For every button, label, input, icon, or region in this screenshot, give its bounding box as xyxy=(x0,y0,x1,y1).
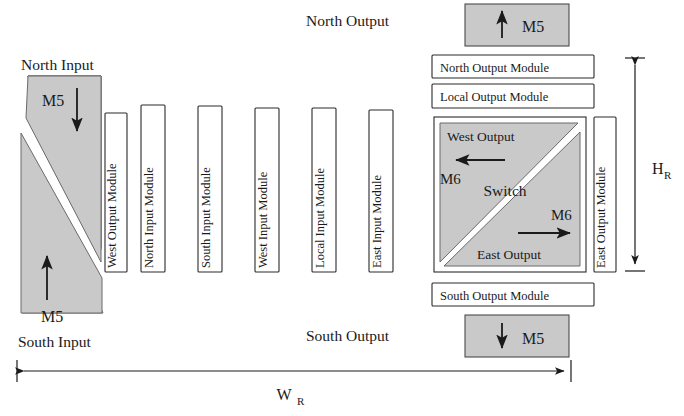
horizontal-module-row[interactable]: South Output Module xyxy=(432,283,594,306)
east-output-module-label: East Output Module xyxy=(594,166,608,268)
vertical-module-column[interactable]: North Input Module xyxy=(141,105,165,272)
vertical-module-label-4: Local Input Module xyxy=(313,168,327,268)
vertical-module-column[interactable]: West Output Module xyxy=(105,113,127,272)
horizontal-module-label-2: South Output Module xyxy=(440,289,549,303)
router-floorplan-svg: North Input M5 M5 South Input West Outpu… xyxy=(0,0,684,416)
horizontal-module-label-0: North Output Module xyxy=(440,61,549,75)
height-dimension-subscript: R xyxy=(664,169,672,181)
height-dimension-label: H xyxy=(652,160,664,177)
switch-center-label: Switch xyxy=(483,182,526,199)
vertical-module-label-3: West Input Module xyxy=(256,171,270,268)
height-dimension: H R xyxy=(625,58,672,271)
west-output-label: West Output xyxy=(447,129,515,144)
east-output-module[interactable]: East Output Module xyxy=(594,117,616,272)
width-dimension-label: W xyxy=(276,386,292,403)
horizontal-module-row[interactable]: Local Output Module xyxy=(432,84,594,108)
east-output-label: East Output xyxy=(477,247,541,262)
width-dimension: W R xyxy=(17,360,571,407)
horizontal-module-label-1: Local Output Module xyxy=(440,90,549,104)
vertical-module-label-2: South Input Module xyxy=(199,167,213,268)
vertical-module-column[interactable]: South Input Module xyxy=(198,106,222,272)
south-output-label: South Output xyxy=(306,327,390,344)
horizontal-module-row[interactable]: North Output Module xyxy=(432,55,594,78)
north-output-port: M5 xyxy=(465,4,569,46)
vertical-module-label-5: East Input Module xyxy=(370,175,384,268)
vertical-module-column[interactable]: East Input Module xyxy=(369,110,393,272)
switch-block[interactable]: West Output M6 Switch M6 East Output xyxy=(434,117,586,272)
north-input-label: North Input xyxy=(21,56,94,73)
south-output-metal-label: M5 xyxy=(522,330,544,347)
vertical-module-column[interactable]: Local Input Module xyxy=(312,108,336,272)
vertical-module-label-1: North Input Module xyxy=(142,167,156,268)
east-output-metal-label: M6 xyxy=(551,207,572,223)
north-output-label: North Output xyxy=(306,12,390,29)
south-input-label: South Input xyxy=(18,333,91,350)
north-output-metal-label: M5 xyxy=(522,18,544,35)
south-output-port: M5 xyxy=(465,315,569,357)
vertical-module-label-0: West Output Module xyxy=(105,163,119,268)
south-input-metal-label: M5 xyxy=(41,308,63,325)
west-output-metal-label: M6 xyxy=(440,171,461,187)
vertical-module-column[interactable]: West Input Module xyxy=(255,108,279,272)
width-dimension-subscript: R xyxy=(297,395,305,407)
diagram-canvas: North Input M5 M5 South Input West Outpu… xyxy=(0,0,684,416)
north-input-metal-label: M5 xyxy=(42,92,64,109)
